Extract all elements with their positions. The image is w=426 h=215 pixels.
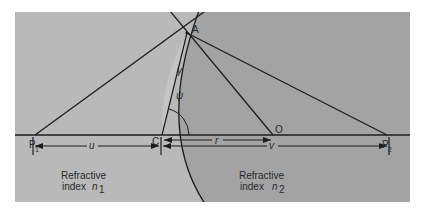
label-c: C [152,136,159,147]
refraction-diagram: A γ ψ O P 1 C r P 2 u v Refractive index… [0,0,426,215]
label-o: O [275,124,283,135]
region-2-label-line1: Refractive [239,170,284,181]
region-2-subscript: 2 [279,184,285,195]
region-2-label-line2: index [240,181,264,192]
medium-2-region [179,0,426,215]
region-1-symbol: n [92,181,98,192]
label-u: u [89,140,95,151]
point-a-dot [185,31,188,34]
label-p2-subscript: 2 [388,146,392,153]
region-1-label-line2: index [62,181,86,192]
label-psi: ψ [176,90,184,101]
label-p1-subscript: 1 [35,146,39,153]
region-2-symbol: n [272,181,278,192]
region-1-subscript: 1 [99,184,105,195]
label-a: A [192,24,199,35]
region-1-label-line1: Refractive [61,170,106,181]
